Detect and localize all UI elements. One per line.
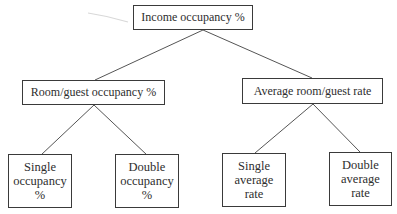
node-single-occupancy: Single occupancy %: [8, 154, 72, 208]
connector-rate-to-single: [255, 104, 313, 153]
node-label-line: Double: [342, 158, 379, 172]
connector-occupancy-to-single: [41, 105, 94, 155]
node-label: Room/guest occupancy %: [31, 86, 156, 99]
node-label-line: average: [235, 173, 274, 187]
node-label-line: occupancy: [13, 174, 66, 188]
node-room-guest-occupancy: Room/guest occupancy %: [22, 80, 165, 105]
node-label-line: rate: [351, 186, 370, 200]
node-average-room-guest-rate: Average room/guest rate: [242, 78, 383, 104]
node-label-line: rate: [245, 187, 264, 201]
node-label-line: %: [142, 188, 152, 202]
connector-rate-to-double: [313, 104, 360, 152]
hierarchy-diagram: Income occupancy % Room/guest occupancy …: [0, 0, 397, 214]
node-label-line: Single: [238, 159, 270, 173]
connector-root-to-room-guest-occupancy: [95, 30, 203, 80]
node-label-line: average: [341, 172, 380, 186]
node-label-line: %: [35, 188, 45, 202]
scan-artifact-arc: [88, 13, 128, 22]
node-label-line: occupancy: [120, 174, 173, 188]
node-label-line: Double: [129, 160, 166, 174]
node-label: Average room/guest rate: [254, 85, 372, 98]
node-single-average-rate: Single average rate: [222, 153, 286, 207]
node-income-occupancy: Income occupancy %: [133, 5, 253, 30]
node-label: Income occupancy %: [141, 11, 244, 24]
node-double-occupancy: Double occupancy %: [115, 154, 179, 208]
connector-root-to-average-rate: [203, 30, 312, 78]
connector-occupancy-to-double: [94, 105, 147, 155]
node-double-average-rate: Double average rate: [329, 152, 392, 206]
node-label-line: Single: [24, 160, 56, 174]
